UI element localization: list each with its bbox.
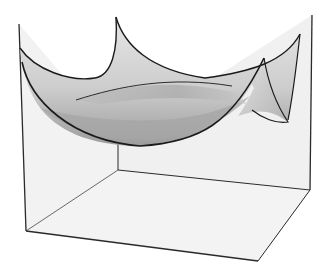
surface-diagram — [0, 0, 332, 275]
diagram-canvas — [0, 0, 332, 275]
